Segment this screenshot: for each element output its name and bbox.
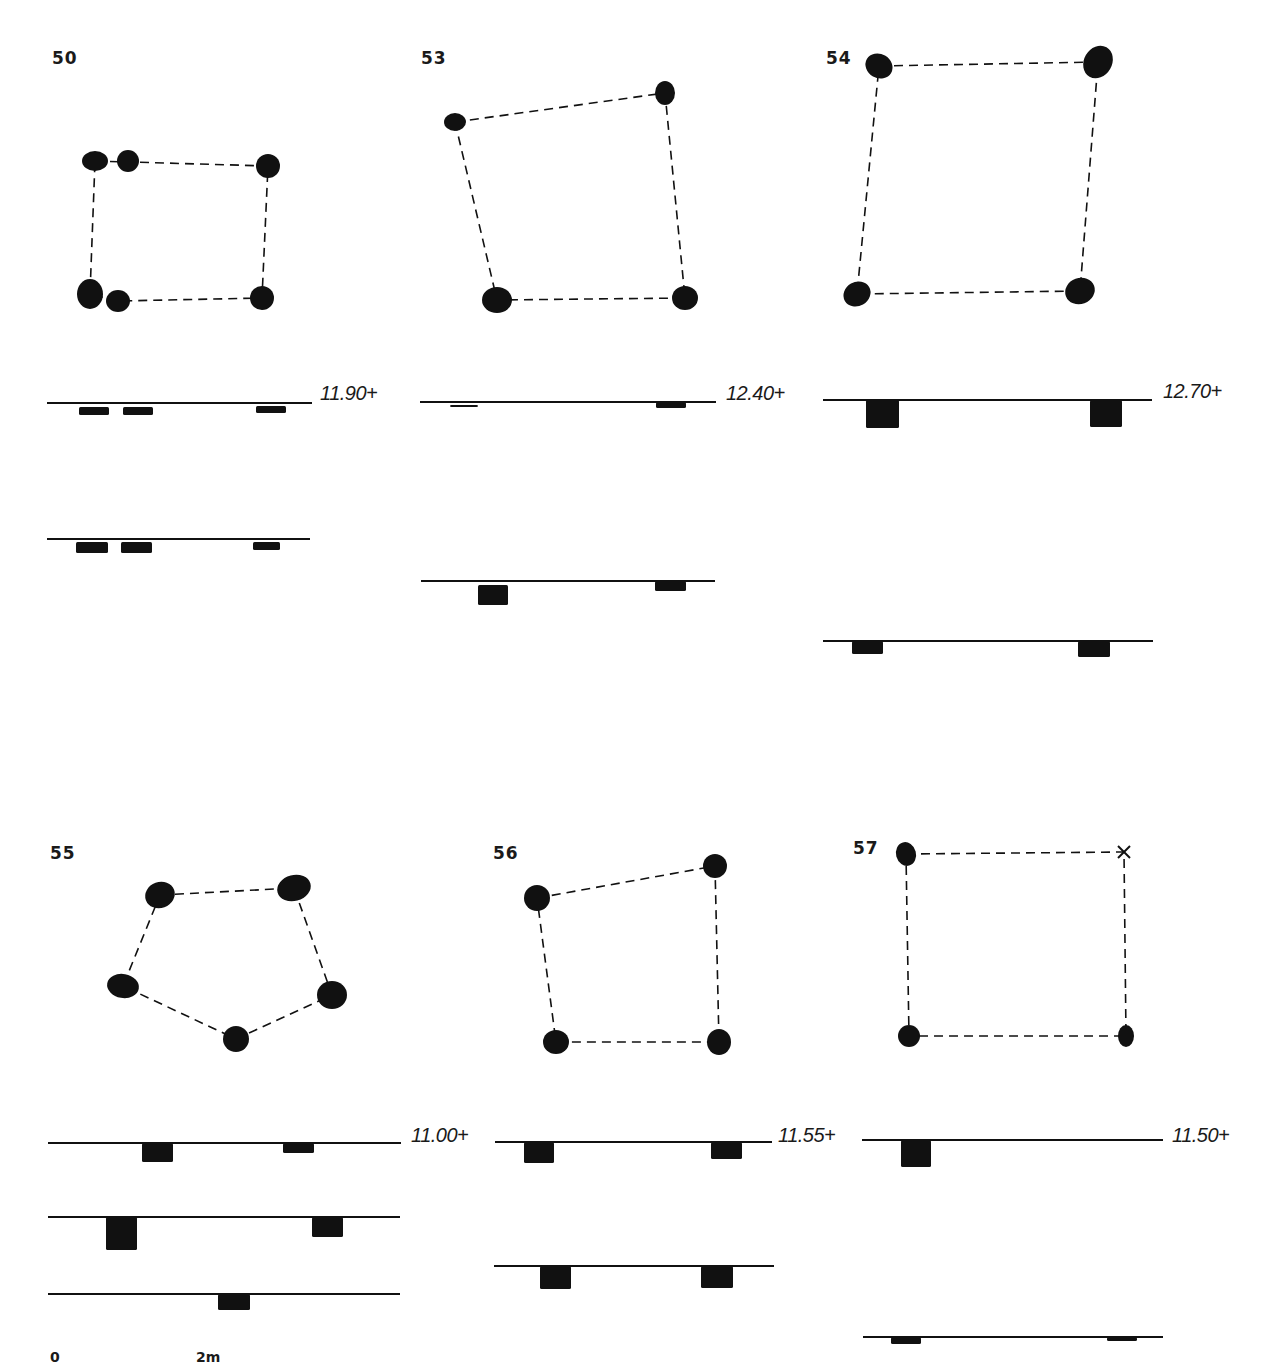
post-hole-icon — [223, 1026, 249, 1052]
post-hole-icon — [141, 878, 178, 913]
post-hole-icon — [893, 840, 919, 868]
post-pit-section — [218, 1294, 250, 1310]
structure-57 — [862, 840, 1163, 1344]
elevation-label: 12.40+ — [726, 382, 785, 405]
scale-bar-label: 0 — [50, 1349, 60, 1364]
post-hole-icon — [1061, 274, 1098, 309]
post-pit-section — [283, 1143, 314, 1153]
dashed-outline — [90, 161, 268, 301]
structure-50 — [47, 150, 312, 553]
section-profile — [823, 400, 1152, 428]
dashed-outline — [906, 852, 1126, 1036]
post-pit-section — [1107, 1337, 1137, 1341]
section-profile — [495, 1142, 772, 1163]
section-profile — [862, 1140, 1163, 1167]
post-hole-icon — [82, 151, 108, 171]
section-profile — [48, 1143, 401, 1162]
post-hole-icon — [707, 1029, 731, 1055]
section-profile — [420, 402, 716, 408]
post-hole-icon — [898, 1025, 920, 1047]
section-profile — [48, 1294, 400, 1310]
post-hole-icon — [1118, 1025, 1134, 1047]
structure-number: 50 — [52, 48, 78, 68]
elevation-label: 11.00+ — [411, 1124, 468, 1147]
structure-55 — [48, 871, 401, 1310]
section-profile — [47, 403, 312, 415]
post-pit-section — [450, 405, 478, 407]
post-pit-section — [253, 542, 280, 550]
post-pit-section — [478, 585, 508, 605]
elevation-label: 11.50+ — [1172, 1124, 1229, 1147]
scale-bar-label: 2m — [196, 1349, 220, 1364]
elevation-label: 11.90+ — [320, 382, 377, 405]
post-pit-section — [540, 1266, 571, 1289]
post-hole-icon — [77, 279, 103, 309]
post-hole-icon — [317, 981, 347, 1009]
post-hole-icon — [839, 277, 875, 312]
archaeological-plate — [0, 0, 1285, 1364]
post-hole-icon — [672, 286, 698, 310]
post-pit-section — [106, 1217, 137, 1250]
dashed-outline — [123, 888, 332, 1039]
section-profile — [48, 1217, 400, 1250]
structure-54 — [823, 40, 1153, 657]
post-pit-section — [142, 1143, 173, 1162]
post-pit-section — [76, 542, 108, 553]
post-hole-icon — [256, 154, 280, 178]
post-pit-section — [524, 1142, 554, 1163]
post-pit-section — [123, 407, 153, 415]
post-pit-section — [655, 581, 686, 591]
post-hole-icon — [655, 81, 675, 105]
post-pit-section — [1090, 400, 1122, 427]
post-hole-icon — [482, 287, 512, 313]
elevation-label: 12.70+ — [1163, 380, 1222, 403]
post-hole-icon — [861, 49, 897, 84]
dashed-outline — [455, 93, 685, 300]
post-pit-section — [711, 1142, 742, 1159]
structure-53 — [420, 81, 716, 605]
structure-56 — [494, 854, 774, 1289]
section-profile — [421, 581, 715, 605]
section-profile — [863, 1337, 1163, 1344]
post-pit-section — [891, 1337, 921, 1344]
dashed-outline — [537, 866, 719, 1042]
section-profile — [823, 641, 1153, 657]
post-pit-section — [901, 1140, 931, 1167]
section-profile — [47, 539, 310, 553]
post-pit-section — [79, 407, 109, 415]
post-hole-icon — [524, 885, 550, 911]
dashed-outline — [857, 62, 1098, 294]
structure-number: 54 — [826, 48, 852, 68]
post-hole-icon — [703, 854, 727, 878]
post-pit-section — [866, 400, 899, 428]
structure-number: 53 — [421, 48, 447, 68]
post-pit-section — [852, 641, 883, 654]
post-pit-section — [656, 402, 686, 408]
post-hole-icon — [106, 290, 130, 312]
section-profile — [494, 1266, 774, 1289]
structure-number: 56 — [493, 843, 519, 863]
post-hole-icon — [1077, 40, 1118, 83]
post-hole-icon — [250, 286, 274, 310]
structure-number: 55 — [50, 843, 76, 863]
post-hole-icon — [444, 113, 466, 131]
elevation-label: 11.55+ — [778, 1124, 835, 1147]
post-hole-icon — [117, 150, 139, 172]
post-hole-icon — [105, 971, 141, 1000]
post-pit-section — [312, 1217, 343, 1237]
post-pit-section — [121, 542, 152, 553]
post-hole-icon — [543, 1030, 569, 1054]
structure-number: 57 — [853, 838, 879, 858]
post-pit-section — [1078, 641, 1110, 657]
post-hole-icon — [274, 871, 314, 905]
post-pit-section — [256, 406, 286, 413]
post-pit-section — [701, 1266, 733, 1288]
